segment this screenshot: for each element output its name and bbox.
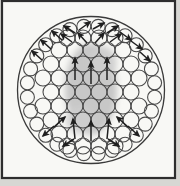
screenshot-root [0,0,180,186]
wire-rope-cross-section-figure [0,0,180,186]
core-shade-blob [66,106,94,134]
